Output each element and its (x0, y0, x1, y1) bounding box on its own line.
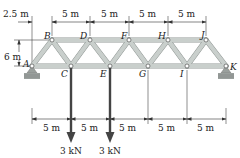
dim-top-0: 2.5 m (3, 9, 29, 19)
load-arrow-E (106, 68, 115, 143)
member-HI (168, 40, 187, 66)
node-label-E: E (99, 69, 107, 79)
dim-bottom-2: 5 m (119, 123, 137, 133)
load-label-E: 3 kN (99, 146, 121, 156)
joint-E (108, 64, 112, 68)
node-label-I: I (179, 69, 184, 79)
dim-height: 6 m (4, 52, 22, 62)
node-label-K: K (229, 62, 238, 72)
member-EF (110, 40, 129, 66)
dim-bottom-1: 5 m (81, 123, 99, 133)
joint-H (166, 38, 170, 42)
dim-bottom-4: 5 m (197, 123, 215, 133)
load-arrow-C (67, 68, 76, 143)
member-DE (90, 40, 110, 66)
dim-top-4: 5 m (178, 9, 196, 19)
joint-D (88, 38, 92, 42)
node-label-D: D (79, 31, 87, 41)
dim-bottom-0: 5 m (43, 123, 61, 133)
joint-I (185, 64, 189, 68)
node-label-B: B (43, 31, 51, 41)
joint-G (146, 64, 150, 68)
dim-top-2: 5 m (101, 9, 119, 19)
joint-K (224, 64, 228, 68)
member-GH (148, 40, 168, 66)
member-CD (71, 40, 90, 66)
joint-C (69, 64, 73, 68)
member-JK (206, 40, 226, 66)
load-label-C: 3 kN (60, 146, 82, 156)
node-label-A: A (22, 59, 30, 69)
joint-F (127, 38, 131, 42)
node-label-G: G (139, 69, 146, 79)
member-BC (52, 40, 71, 66)
truss-diagram: 2.5 m 5 m 5 m 5 m 5 m 6 m A B C D E F G … (0, 0, 240, 158)
member-IJ (187, 40, 206, 66)
member-AB (32, 40, 52, 66)
dim-bottom-3: 5 m (158, 123, 176, 133)
member-FG (129, 40, 148, 66)
truss-members (32, 40, 226, 66)
dim-top-1: 5 m (62, 9, 80, 19)
joint-A (30, 64, 34, 68)
dim-top-3: 5 m (139, 9, 157, 19)
node-label-H: H (157, 31, 166, 41)
node-label-F: F (120, 31, 128, 41)
node-label-C: C (61, 69, 68, 79)
